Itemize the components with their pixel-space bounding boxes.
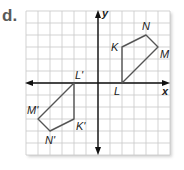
vertex-label-K-prime: K' <box>76 120 86 132</box>
vertex-label-K: K <box>111 41 119 53</box>
x-axis-label: x <box>161 85 169 97</box>
vertex-label-M: M <box>160 48 170 60</box>
vertex-label-M-prime: M' <box>27 104 39 116</box>
vertex-label-L: L <box>114 85 120 97</box>
vertex-label-N: N <box>142 20 150 32</box>
coordinate-graph: y x K N M L K' N' M' L' <box>0 0 184 170</box>
vertex-label-L-prime: L' <box>75 69 84 81</box>
y-axis-label: y <box>101 7 109 19</box>
vertex-label-N-prime: N' <box>45 134 56 146</box>
